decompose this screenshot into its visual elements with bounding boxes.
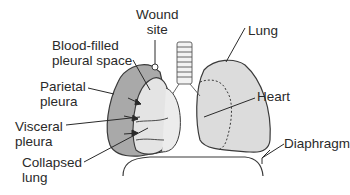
trachea	[170, 42, 200, 98]
leader-parietal	[88, 88, 114, 94]
label-collapsed-lung: Collapsed lung	[22, 155, 82, 185]
label-heart: Heart	[257, 89, 290, 104]
diaphragm-outline	[123, 157, 263, 176]
label-lung: Lung	[248, 23, 278, 38]
wound-site-marker	[152, 64, 158, 70]
label-diaphragm: Diaphragm	[284, 136, 350, 151]
label-wound-site: Wound site	[136, 7, 179, 37]
label-visceral-pleura: Visceral pleura	[15, 119, 63, 149]
label-parietal-pleura: Parietal pleura	[40, 79, 86, 109]
leader-lung	[226, 28, 245, 62]
label-blood-filled-pleural-space: Blood-filled pleural space	[52, 38, 132, 68]
